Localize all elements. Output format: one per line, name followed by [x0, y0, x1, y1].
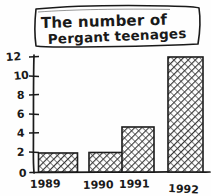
x-tick-label-1991: 1991: [119, 177, 150, 191]
y-tick-label-2: 2: [16, 146, 24, 159]
chart-canvas: The number of Pergant teenages 12 10 8 6…: [0, 0, 211, 196]
y-tick-label-12: 12: [5, 50, 21, 64]
x-tick-label-1989: 1989: [30, 177, 61, 191]
bar-1989: [39, 153, 78, 172]
y-tick-label-10: 10: [13, 68, 30, 83]
hand-drawn-bar-chart: The number of Pergant teenages 12 10 8 6…: [0, 0, 211, 196]
bar-1992: [168, 57, 203, 172]
y-tick-label-0: 0: [19, 167, 27, 180]
y-tick-label-4: 4: [17, 127, 25, 140]
x-tick-label-1992: 1992: [168, 182, 199, 196]
x-tick-label-1990: 1990: [83, 178, 114, 192]
y-tick-label-8: 8: [17, 89, 25, 102]
y-tick-label-6: 6: [16, 108, 25, 121]
bar-1991: [122, 127, 154, 172]
